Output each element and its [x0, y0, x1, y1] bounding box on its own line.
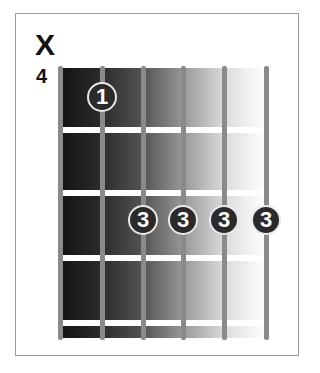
string-5: [222, 66, 227, 340]
finger-dot-string-4: 3: [168, 205, 198, 235]
fret-line-4: [62, 320, 266, 326]
finger-dot-string-6: 3: [251, 205, 281, 235]
string-4: [181, 66, 186, 340]
finger-dot-string-5: 3: [209, 205, 239, 235]
start-fret-number: 4: [36, 64, 47, 88]
muted-string-marker: X: [35, 30, 55, 60]
finger-dot-string-2: 1: [87, 82, 117, 112]
string-6: [264, 66, 269, 340]
string-3: [141, 66, 146, 340]
string-1: [58, 66, 63, 340]
finger-dot-string-3: 3: [128, 205, 158, 235]
fret-line-3: [62, 255, 266, 261]
fret-line-1: [62, 127, 266, 133]
fret-line-2: [62, 190, 266, 196]
